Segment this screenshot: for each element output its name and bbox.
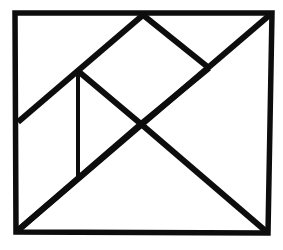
- tangram-canvas: [0, 0, 283, 250]
- tangram-figure-root: [0, 0, 283, 250]
